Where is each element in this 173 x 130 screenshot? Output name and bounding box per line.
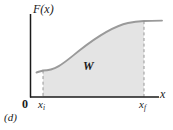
work-area-label: W (83, 60, 94, 72)
xi-tick-subscript: i (43, 103, 45, 112)
work-area-figure: F(x) x 0 xi xf W (d) (0, 0, 173, 130)
y-axis-label: F(x) (33, 3, 54, 15)
panel-caption: (d) (4, 112, 17, 123)
x-axis-label: x (160, 88, 165, 100)
xi-tick-label: xi (38, 99, 45, 112)
xf-tick-subscript: f (144, 103, 146, 112)
origin-label: 0 (22, 98, 28, 110)
xf-tick-label: xf (139, 99, 146, 112)
